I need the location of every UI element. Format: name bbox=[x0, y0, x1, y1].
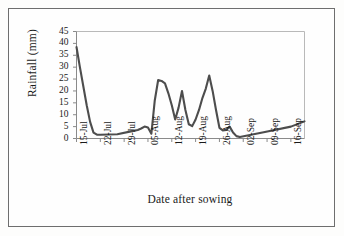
y-tick-label: 25 bbox=[49, 74, 69, 83]
x-tick-label: 15-Jul bbox=[80, 121, 89, 145]
y-tick-label: 0 bbox=[49, 134, 69, 143]
x-tick-label: 16-Sep bbox=[294, 118, 303, 145]
x-tick-label: 22-Jul bbox=[104, 121, 113, 145]
x-tick-label: 09-Sep bbox=[271, 118, 280, 145]
y-tick-label: 40 bbox=[49, 38, 69, 47]
x-tick-label: 02-Sep bbox=[247, 118, 256, 145]
y-tick-label: 35 bbox=[49, 50, 69, 59]
y-axis-title: Rainfall (mm) bbox=[26, 8, 38, 118]
y-tick-label: 45 bbox=[49, 27, 69, 36]
y-tick-label: 30 bbox=[49, 62, 69, 71]
x-tick-label: 19-Aug bbox=[199, 115, 208, 144]
chart-area: Rainfall (mm) Date after sowing 05101520… bbox=[0, 0, 344, 236]
y-tick-label: 15 bbox=[49, 98, 69, 107]
x-tick-label: 05-Aug bbox=[151, 115, 160, 144]
x-tick-label: 29-Jul bbox=[128, 121, 137, 145]
y-tick-label: 5 bbox=[49, 122, 69, 131]
x-tick-label: 12-Aug bbox=[175, 115, 184, 144]
y-tick-label: 10 bbox=[49, 110, 69, 119]
x-tick-label: 26-Aug bbox=[223, 115, 232, 144]
figure-container: Rainfall (mm) Date after sowing 05101520… bbox=[0, 0, 344, 236]
x-axis-title: Date after sowing bbox=[76, 193, 304, 205]
y-tick-label: 20 bbox=[49, 86, 69, 95]
